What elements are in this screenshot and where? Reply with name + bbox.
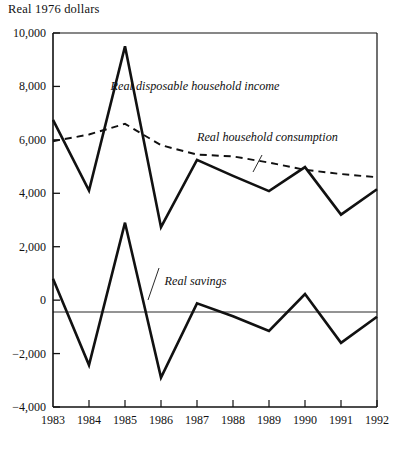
y-tick-label: 2,000 bbox=[19, 240, 46, 254]
data-series-layer bbox=[53, 46, 377, 377]
x-tick-label: 1986 bbox=[149, 413, 173, 427]
annotation-label: Real savings bbox=[164, 274, 227, 288]
y-axis-tick-labels: 10,0008,0006,0004,0002,0000−2,000−4,000 bbox=[12, 26, 46, 414]
chart-container: Real 1976 dollars 10,0008,0006,0004,0002… bbox=[0, 0, 403, 451]
y-tick-label: −2,000 bbox=[12, 347, 46, 361]
y-tick-label: 8,000 bbox=[19, 79, 46, 93]
x-tick-label: 1992 bbox=[365, 413, 389, 427]
x-tick-label: 1988 bbox=[221, 413, 245, 427]
y-axis-ticks bbox=[53, 33, 60, 407]
annotation-label: Real household consumption bbox=[196, 130, 338, 144]
annotation-layer: Real disposable household incomeReal hou… bbox=[110, 79, 338, 288]
x-tick-label: 1983 bbox=[41, 413, 65, 427]
savings-leader-line bbox=[148, 268, 159, 300]
x-tick-label: 1985 bbox=[113, 413, 137, 427]
x-tick-label: 1991 bbox=[329, 413, 353, 427]
series-real-savings bbox=[53, 223, 377, 378]
x-tick-label: 1989 bbox=[257, 413, 281, 427]
y-tick-label: −4,000 bbox=[12, 400, 46, 414]
plot-area: 10,0008,0006,0004,0002,0000−2,000−4,000 … bbox=[0, 0, 403, 451]
y-tick-label: 0 bbox=[40, 293, 46, 307]
consumption-leader-line bbox=[253, 155, 262, 172]
y-tick-label: 6,000 bbox=[19, 133, 46, 147]
x-axis-tick-labels: 1983198419851986198719881989199019911992 bbox=[41, 413, 389, 427]
annotation-label: Real disposable household income bbox=[110, 79, 280, 93]
x-tick-label: 1987 bbox=[185, 413, 209, 427]
y-tick-label: 4,000 bbox=[19, 186, 46, 200]
x-tick-label: 1984 bbox=[77, 413, 101, 427]
x-tick-label: 1990 bbox=[293, 413, 317, 427]
x-axis-ticks bbox=[89, 400, 377, 407]
y-tick-label: 10,000 bbox=[13, 26, 46, 40]
